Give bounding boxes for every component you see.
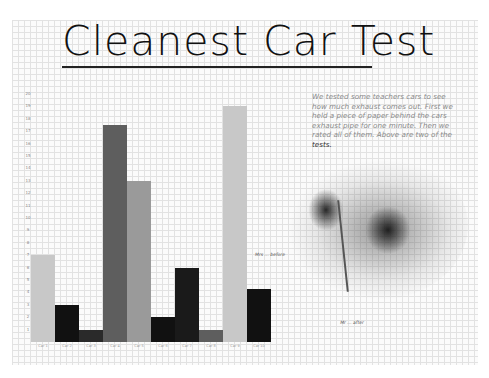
description-note: We tested some teachers cars to see how … — [312, 92, 462, 149]
bar-10 — [247, 289, 271, 342]
chart-title: Cleanest Car Test — [62, 18, 435, 64]
exhaust-stain-image — [268, 150, 468, 300]
bar-7 — [175, 268, 199, 342]
bar-5 — [127, 181, 151, 342]
x-label: Car 10 — [247, 344, 271, 348]
description-text: We tested some teachers cars to see how … — [312, 92, 453, 139]
x-label: Car 6 — [151, 344, 175, 348]
bar-8 — [199, 330, 223, 342]
bar-9 — [223, 106, 247, 342]
before-annotation: Mrs ... before — [255, 252, 285, 257]
bar-3 — [79, 330, 103, 342]
bar-6 — [151, 317, 175, 342]
title-underline — [62, 66, 372, 68]
x-label: Car 2 — [55, 344, 79, 348]
x-label: Car 7 — [175, 344, 199, 348]
x-label: Car 8 — [199, 344, 223, 348]
x-label: Car 3 — [79, 344, 103, 348]
x-label: Car 9 — [223, 344, 247, 348]
x-label: Car 5 — [127, 344, 151, 348]
bar-4 — [103, 125, 127, 342]
bar-1 — [31, 255, 55, 342]
bar-2 — [55, 305, 79, 342]
bar-plot-area — [31, 85, 271, 342]
after-annotation: Mr ... after — [338, 320, 366, 325]
description-emphasis: tests. — [312, 140, 332, 149]
x-label: Car 1 — [31, 344, 55, 348]
x-label: Car 4 — [103, 344, 127, 348]
